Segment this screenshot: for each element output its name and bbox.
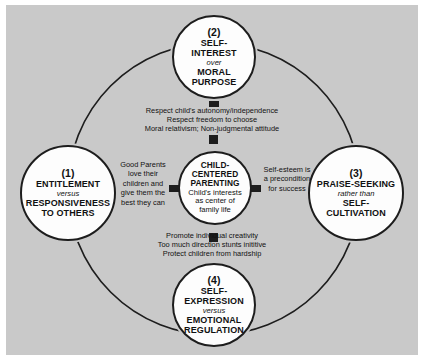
connector-line: Moral relativism; Non-judgmental attitud…	[118, 124, 306, 133]
node-title-top-line1: SELF-	[201, 38, 228, 48]
connector-line: Respect child's autonomy/independence	[118, 106, 306, 115]
node-number: (1)	[62, 168, 75, 180]
node-title-bottom-line2: TO OTHERS	[41, 208, 94, 218]
node-title-bottom-line1: RESPONSIVENESS	[26, 198, 110, 208]
connector-text-bottom: Promote individual creativity Too much d…	[118, 231, 306, 259]
node-title-top-line2: INTEREST	[191, 48, 236, 58]
connector-line: children and	[112, 179, 174, 188]
diagram-panel: (2) SELF- INTEREST over MORAL PURPOSE (1…	[6, 5, 418, 355]
node-title-bottom-line2: CULTIVATION	[326, 208, 386, 218]
diagram-stage: (2) SELF- INTEREST over MORAL PURPOSE (1…	[6, 5, 418, 355]
connector-line: Protect children from hardship	[118, 249, 306, 258]
node-title-top: PRAISE-SEEKING	[317, 179, 395, 189]
connector-line: Promote individual creativity	[118, 231, 306, 240]
arrow-top-inner	[209, 135, 218, 144]
node-entitlement[interactable]: (1) ENTITLEMENT versus RESPONSIVENESS TO…	[20, 145, 116, 241]
node-self-interest[interactable]: (2) SELF- INTEREST over MORAL PURPOSE	[172, 15, 256, 99]
connector-line: love their	[112, 169, 174, 178]
node-child-centered-parenting[interactable]: CHILD- CENTERED PARENTING Child's intere…	[178, 151, 252, 225]
node-praise-seeking[interactable]: (3) PRAISE-SEEKING rather than SELF- CUL…	[308, 145, 404, 241]
connector-text-top: Respect child's autonomy/independence Re…	[118, 106, 306, 134]
connector-line: give them the	[112, 188, 174, 197]
node-title-top-line2: EXPRESSION	[184, 296, 244, 306]
node-title-top-line1: SELF-	[201, 286, 228, 296]
node-connector-word: versus	[57, 189, 79, 198]
node-number: (3)	[350, 168, 363, 180]
node-title-bottom-line1: MORAL	[197, 67, 231, 77]
node-title-bottom-line1: EMOTIONAL	[187, 315, 242, 325]
connector-line: Self-esteem is	[256, 165, 318, 174]
node-title-bottom-line1: SELF-	[343, 198, 370, 208]
connector-line: Too much direction stunts inititive	[118, 240, 306, 249]
node-title-bottom-line2: REGULATION	[184, 325, 244, 335]
connector-line: Respect freedom to choose	[118, 115, 306, 124]
node-self-expression[interactable]: (4) SELF- EXPRESSION versus EMOTIONAL RE…	[172, 263, 256, 347]
node-title-bottom-line2: PURPOSE	[192, 77, 237, 87]
node-connector-word: versus	[203, 306, 225, 315]
connector-line: best they can	[112, 198, 174, 207]
connector-text-left: Good Parents love their children and giv…	[112, 160, 174, 207]
center-sub-line3: family life	[199, 206, 231, 215]
node-number: (4)	[208, 275, 221, 287]
node-number: (2)	[208, 27, 221, 39]
node-connector-word: over	[207, 58, 222, 67]
node-title-top: ENTITLEMENT	[36, 179, 100, 189]
connector-line: Good Parents	[112, 160, 174, 169]
node-connector-word: rather than	[338, 189, 375, 198]
